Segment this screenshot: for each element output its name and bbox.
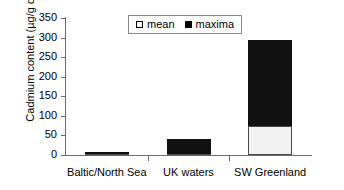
y-tick-label: 350 (17, 12, 57, 23)
y-tick-mark (61, 155, 65, 156)
legend-label-mean: mean (147, 18, 175, 30)
bar-baltic-north-sea (85, 18, 129, 155)
y-tick-label: 100 (17, 110, 57, 121)
x-tick-mark (148, 156, 149, 161)
chart-legend: mean maxima (128, 15, 242, 34)
legend-swatch-mean-icon (136, 21, 143, 28)
cadmium-content-bar-chart: Cadmium content (µg/g dw) 05010015020025… (0, 0, 344, 190)
bar-segment-mean (248, 126, 292, 155)
legend-entry-maxima: maxima (185, 18, 235, 30)
y-tick-label: 200 (17, 71, 57, 82)
x-tick-label: UK waters (148, 166, 230, 178)
y-tick-mark (61, 57, 65, 58)
y-tick-label: 250 (17, 51, 57, 62)
plot-area (66, 18, 311, 155)
x-tick-label: SW Greenland (229, 166, 311, 178)
bar-segment-maxima (167, 139, 211, 153)
y-tick-mark (61, 135, 65, 136)
y-tick-mark (61, 38, 65, 39)
bar-sw-greenland (248, 18, 292, 155)
y-tick-mark (61, 77, 65, 78)
y-tick-mark (61, 18, 65, 19)
bar-segment-maxima (248, 40, 292, 127)
x-axis-line (65, 155, 312, 156)
legend-label-maxima: maxima (196, 18, 235, 30)
y-tick-label: 150 (17, 90, 57, 101)
y-tick-label: 50 (17, 129, 57, 140)
bar-segment-maxima (85, 152, 129, 154)
legend-swatch-maxima-icon (185, 21, 192, 28)
legend-entry-mean: mean (136, 18, 175, 30)
y-tick-label: 0 (17, 149, 57, 160)
y-tick-mark (61, 96, 65, 97)
bar-uk-waters (167, 18, 211, 155)
y-tick-mark (61, 116, 65, 117)
x-tick-label: Baltic/North Sea (66, 166, 148, 178)
y-tick-label: 300 (17, 32, 57, 43)
x-tick-mark (229, 156, 230, 161)
